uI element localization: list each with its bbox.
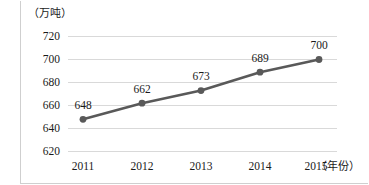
data-label-2013: 673 (181, 71, 221, 83)
x-tick-label-2011: 2011 (60, 161, 106, 173)
data-label-2011: 648 (63, 100, 103, 112)
data-point-2011 (80, 116, 87, 123)
data-point-2014 (257, 69, 264, 76)
x-tick-label-2012: 2012 (119, 161, 165, 173)
x-axis-unit-label: （年份） (316, 161, 360, 172)
line-chart: （万吨） 720 700 680 660 640 620 648 662 673… (0, 0, 369, 185)
plot-area (0, 0, 369, 185)
data-point-2012 (139, 100, 146, 107)
data-label-2015: 700 (299, 40, 339, 52)
data-point-2013 (198, 87, 205, 94)
data-label-2012: 662 (122, 84, 162, 96)
data-label-2014: 689 (240, 53, 280, 65)
x-tick-label-2013: 2013 (178, 161, 224, 173)
data-point-2015 (316, 56, 323, 63)
x-tick-label-2014: 2014 (237, 161, 283, 173)
